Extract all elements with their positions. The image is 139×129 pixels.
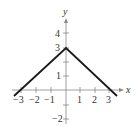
y-tick-label: −2 [52, 113, 63, 124]
x-tick-label: 1 [77, 94, 82, 105]
x-axis-label: x [125, 84, 131, 95]
x-tick-label: 2 [92, 94, 97, 105]
graph: −3 −2 −1 1 2 3 4 3 1 −2 x y [0, 0, 139, 129]
y-tick-label: 1 [56, 70, 61, 81]
function-line [14, 48, 117, 96]
x-tick-label: −2 [29, 94, 40, 105]
y-tick-label: 4 [55, 28, 60, 39]
y-axis-label: y [62, 6, 68, 17]
x-tick-label: 3 [106, 94, 111, 105]
y-tick-label: 3 [55, 42, 60, 53]
x-tick-label: −1 [44, 94, 55, 105]
y-axis-arrow-icon [64, 18, 68, 23]
x-axis-arrow-icon [119, 88, 124, 92]
